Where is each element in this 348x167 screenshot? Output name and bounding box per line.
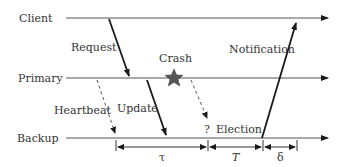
lane-label-client: Client [19,12,53,25]
notification-arrow [262,23,296,138]
crash-label: Crash [159,52,192,65]
question-mark: ? [204,123,210,136]
T-label: T [232,151,241,164]
tau-label: τ [159,151,165,164]
election-label: Election [216,123,262,136]
delta-label: δ [277,151,284,164]
missed-heartbeat-arrow [191,80,207,118]
lane-label-primary: Primary [18,72,63,85]
update-label: Update [117,102,158,115]
notification-label: Notification [229,43,295,56]
crash-star-icon [165,69,183,86]
failover-timing-diagram: Client Primary Backup Request Crash Hear… [0,0,348,167]
lane-label-backup: Backup [17,132,59,145]
heartbeat-label: Heartbeat [54,104,111,117]
request-label: Request [71,41,117,54]
